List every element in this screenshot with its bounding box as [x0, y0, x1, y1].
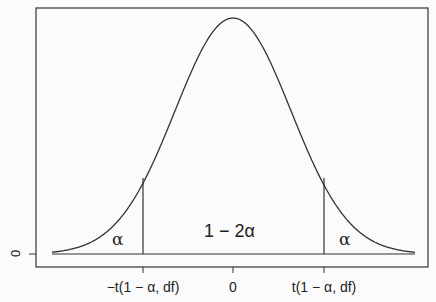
y-tick-label-zero: 0	[8, 250, 23, 257]
x-tick-label-zero: 0	[229, 279, 237, 295]
density-curve	[52, 18, 415, 252]
center-region-label: 1 − 2α	[204, 221, 255, 242]
left-tail-label: α	[112, 229, 123, 249]
right-tail-label: α	[339, 229, 350, 249]
x-tick-label-left: −t(1 − α, df)	[107, 279, 180, 295]
density-plot	[0, 0, 436, 302]
x-tick-label-right: t(1 − α, df)	[292, 279, 357, 295]
